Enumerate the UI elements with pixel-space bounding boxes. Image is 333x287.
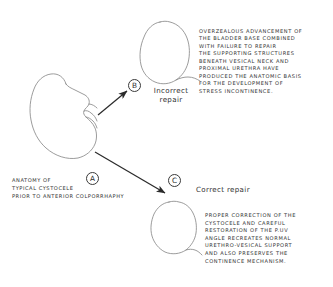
- caption-anatomy-typical-cystocele: ANATOMY OF TYPICAL CYSTOCELE PRIOR TO AN…: [12, 176, 152, 201]
- marker-c: C: [168, 174, 181, 187]
- block-c-line: ANGLE RECREATES NORMAL: [205, 235, 331, 243]
- figure-c-bladder-drawing: [151, 201, 202, 255]
- block-c-line: RESTORATION OF THE P.UV: [205, 227, 331, 235]
- text-block-correct-repair: PROPER CORRECTION OF THE CYSTOCELE AND C…: [205, 212, 331, 265]
- label-correct-repair: Correct repair: [196, 185, 250, 194]
- block-b-line: FOR THE DEVELOPMENT OF: [199, 80, 331, 87]
- arrow-a-to-b: [98, 91, 127, 115]
- text-block-incorrect-repair: OVERZEALOUS ADVANCEMENT OF THE BLADDER B…: [199, 28, 331, 95]
- block-c-line: URETHRO-VESICAL SUPPORT: [205, 242, 331, 250]
- label-incorrect-line: repair: [148, 95, 194, 104]
- marker-b-label: B: [132, 81, 137, 90]
- block-b-line: PRODUCED THE ANATOMIC BASIS: [199, 73, 331, 80]
- block-b-line: THE SUPPORTING STRUCTURES: [199, 50, 331, 57]
- block-b-line: STRESS INCONTINENCE.: [199, 88, 331, 95]
- block-c-line: CYSTOCELE AND CAREFUL: [205, 220, 331, 228]
- block-b-line: OVERZEALOUS ADVANCEMENT OF: [199, 28, 331, 35]
- label-incorrect-repair: Incorrect repair: [148, 86, 194, 104]
- figure-a-cystocele-drawing: [30, 74, 97, 159]
- block-b-line: THE BLADDER BASE COMBINED: [199, 35, 331, 42]
- block-b-line: BENEATH VESICAL NECK AND: [199, 58, 331, 65]
- block-c-line: AND ALSO PRESERVES THE: [205, 250, 331, 258]
- block-b-line: PROXIMAL URETHRA HAVE: [199, 65, 331, 72]
- figure-b-bladder-drawing: [140, 21, 200, 83]
- caption-a-line: ANATOMY OF: [12, 176, 152, 184]
- caption-a-line: TYPICAL CYSTOCELE: [12, 184, 152, 192]
- marker-c-label: C: [172, 176, 177, 185]
- block-c-line: CONTINENCE MECHANISM.: [205, 258, 331, 266]
- block-b-line: WITH FAILURE TO REPAIR: [199, 43, 331, 50]
- diagram-page: A B C ANATOMY OF TYPICAL CYSTOCELE PRIOR…: [0, 0, 333, 287]
- caption-a-line: PRIOR TO ANTERIOR COLPORRHAPHY: [12, 192, 152, 200]
- block-c-line: PROPER CORRECTION OF THE: [205, 212, 331, 220]
- label-incorrect-line: Incorrect: [148, 86, 194, 95]
- marker-b: B: [128, 79, 141, 92]
